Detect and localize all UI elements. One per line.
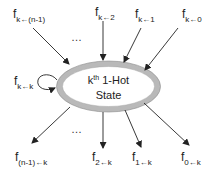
label-out-0: f0←k <box>181 151 201 169</box>
label-out-1: f1←k <box>132 151 152 169</box>
label-in-2: fk←2 <box>95 6 115 24</box>
arrow-out-n-1 <box>32 107 70 143</box>
arrow-out-1 <box>125 110 141 147</box>
ellipsis-bottom: … <box>71 123 83 135</box>
arrow-in-0 <box>145 28 178 70</box>
ellipsis-top: … <box>71 31 83 43</box>
arrow-out-0 <box>144 103 189 145</box>
label-out-2: f2←k <box>92 151 112 169</box>
label-self-loop: fk←k <box>14 75 33 93</box>
arrow-in-1 <box>124 28 141 62</box>
label-in-1: fk←1 <box>135 8 155 26</box>
label-in-n-1: fk←(n-1) <box>13 8 45 26</box>
label-out-n-1: f(n-1)←k <box>15 151 47 169</box>
state-label-line2: State <box>55 88 162 102</box>
state-label-line1: kth 1-Hot <box>55 73 162 87</box>
label-in-0: fk←0 <box>182 8 202 26</box>
arrow-in-n-1 <box>33 28 69 64</box>
